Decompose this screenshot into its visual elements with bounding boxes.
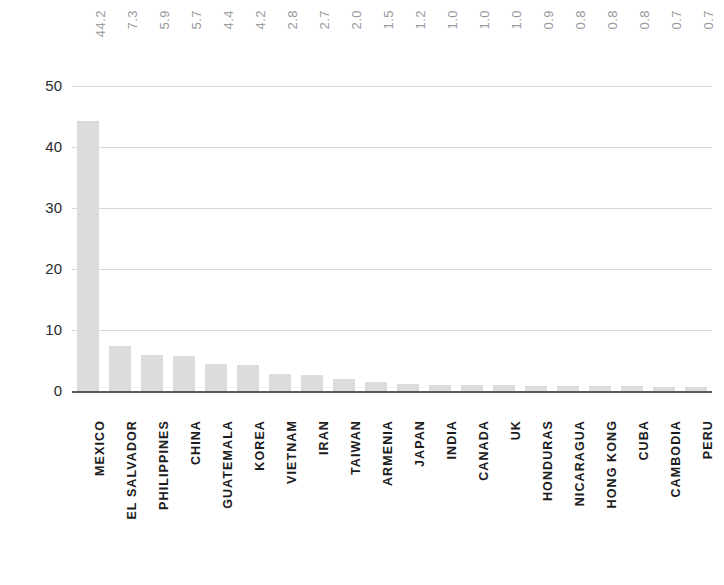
- category-label: MEXICO: [94, 420, 107, 530]
- bar-value-label: 1.5: [382, 10, 395, 70]
- category-label: VIETNAM: [286, 420, 299, 530]
- bar-value-label: 0.8: [606, 10, 619, 70]
- category-label: CAMBODIA: [670, 420, 683, 530]
- bar-value-label: 44.2: [94, 10, 107, 70]
- y-axis-tick-label: 20: [0, 261, 62, 276]
- bar-value-label: 1.0: [478, 10, 491, 70]
- bar: [589, 386, 611, 391]
- bar-value-label: 0.9: [542, 10, 555, 70]
- category-label: JAPAN: [414, 420, 427, 530]
- y-axis-tick-label: 40: [0, 139, 62, 154]
- bar: [333, 379, 355, 391]
- secondary-bar-chart-partial: 140000: [0, 530, 724, 585]
- gridline: [72, 208, 712, 209]
- x-axis-baseline: [72, 391, 712, 393]
- bar: [269, 374, 291, 391]
- bar-value-label: 1.2: [414, 10, 427, 70]
- gridline: [72, 269, 712, 270]
- bar-value-label: 5.9: [158, 10, 171, 70]
- bar: [621, 386, 643, 391]
- bar: [557, 386, 579, 391]
- category-label: TAIWAN: [350, 420, 363, 530]
- category-label: CHINA: [190, 420, 203, 530]
- category-label: INDIA: [446, 420, 459, 530]
- category-label: HONDURAS: [542, 420, 555, 530]
- category-label: HONG KONG: [606, 420, 619, 530]
- bar: [205, 364, 227, 391]
- category-label: CUBA: [638, 420, 651, 530]
- bar: [653, 387, 675, 391]
- bar-value-label: 5.7: [190, 10, 203, 70]
- bar: [141, 355, 163, 391]
- y-axis-tick-label: 30: [0, 200, 62, 215]
- bar: [77, 121, 99, 391]
- bar-value-label: 4.2: [254, 10, 267, 70]
- bar: [301, 375, 323, 391]
- bar: [461, 385, 483, 391]
- plot-area: [72, 86, 712, 391]
- bar-value-label: 0.8: [574, 10, 587, 70]
- bar: [397, 384, 419, 391]
- bar: [525, 386, 547, 391]
- bar: [493, 385, 515, 391]
- bar-value-label: 0.8: [638, 10, 651, 70]
- bar: [109, 346, 131, 391]
- bar-value-label: 0.7: [702, 10, 715, 70]
- category-label: EL SALVADOR: [126, 420, 139, 530]
- category-label: PERU: [702, 420, 715, 530]
- bar-value-label: 2.7: [318, 10, 331, 70]
- bar-value-label: 1.0: [446, 10, 459, 70]
- primary-bar-chart: 01020304050 44.27.35.95.74.44.22.82.72.0…: [0, 0, 724, 530]
- category-label: PHILIPPINES: [158, 420, 171, 530]
- category-label: UK: [510, 420, 523, 530]
- bar-value-label: 4.4: [222, 10, 235, 70]
- y-axis-tick-label: 10: [0, 322, 62, 337]
- y-axis-tick-label: 0: [0, 383, 62, 398]
- y-axis-tick-label: 50: [0, 78, 62, 93]
- bar-value-label: 1.0: [510, 10, 523, 70]
- gridline: [72, 147, 712, 148]
- bar-value-label: 7.3: [126, 10, 139, 70]
- category-label: ARMENIA: [382, 420, 395, 530]
- category-label: KOREA: [254, 420, 267, 530]
- bar: [685, 387, 707, 391]
- bar-value-label: 2.8: [286, 10, 299, 70]
- category-label: CANADA: [478, 420, 491, 530]
- bar: [173, 356, 195, 391]
- category-label: GUATEMALA: [222, 420, 235, 530]
- category-label: NICARAGUA: [574, 420, 587, 530]
- gridline: [72, 330, 712, 331]
- bar-value-label: 0.7: [670, 10, 683, 70]
- bar: [365, 382, 387, 391]
- category-label: IRAN: [318, 420, 331, 530]
- gridline: [72, 86, 712, 87]
- bar-value-label: 2.0: [350, 10, 363, 70]
- bar: [237, 365, 259, 391]
- bar: [429, 385, 451, 391]
